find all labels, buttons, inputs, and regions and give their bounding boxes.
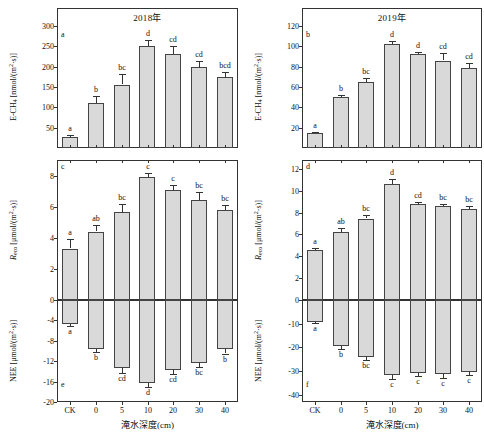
bar	[88, 300, 104, 349]
significance-letter: cd	[439, 42, 447, 51]
x-tick-mark	[122, 145, 123, 148]
y-tick-label: 12	[268, 165, 302, 174]
error-bar-cap	[119, 74, 126, 75]
y-tick-label: 200	[23, 63, 57, 72]
significance-letter: bc	[439, 193, 447, 202]
x-tick-mark	[96, 145, 97, 148]
x-tick-mark	[173, 145, 174, 148]
x-tick-mark	[315, 160, 316, 163]
significance-letter: cd	[169, 35, 177, 44]
x-tick-mark	[418, 145, 419, 148]
bar	[139, 46, 155, 148]
error-bar-cap	[440, 53, 447, 54]
y-tick-label: -20	[268, 343, 302, 352]
panel-d-y-axis-label: Reco [μmol/(m2·s)]	[253, 200, 263, 260]
x-tick-label: 10	[144, 406, 152, 415]
error-bar-cap	[67, 135, 74, 136]
x-tick-mark	[469, 402, 470, 405]
y-tick-label: 20	[268, 124, 302, 133]
error-bar-cap	[363, 215, 370, 216]
x-tick-mark	[122, 402, 123, 405]
y-tick-label: -40	[268, 391, 302, 400]
bar	[88, 232, 104, 300]
significance-letter: a	[68, 327, 72, 336]
y-tick-label: -10	[268, 320, 302, 329]
bar	[62, 300, 78, 324]
error-bar-cap	[196, 61, 203, 62]
significance-letter: a	[68, 124, 72, 133]
bar	[139, 300, 155, 383]
x-tick-mark	[225, 160, 226, 163]
error-bar-cap	[93, 96, 100, 97]
y-tick-label: 50	[23, 124, 57, 133]
x-tick-mark	[392, 402, 393, 405]
error-bar	[199, 61, 200, 68]
significance-letter: bcd	[219, 61, 231, 70]
x-tick-mark	[225, 402, 226, 405]
error-bar-cap	[170, 185, 177, 186]
panel-letter-f: f	[306, 380, 309, 389]
significance-letter: c	[171, 174, 175, 183]
x-tick-mark	[173, 402, 174, 405]
significance-letter: cd	[169, 375, 177, 384]
x-tick-mark	[418, 160, 419, 163]
y-tick-label: 0	[23, 296, 57, 305]
x-tick-mark	[315, 402, 316, 405]
significance-letter: b	[223, 355, 227, 364]
error-bar-cap	[389, 179, 396, 180]
bar	[217, 77, 233, 148]
panel-title-2019: 2019年	[302, 8, 482, 26]
error-bar	[122, 74, 123, 84]
error-bar-cap	[93, 225, 100, 226]
bar	[384, 184, 400, 300]
bar	[358, 300, 374, 357]
bar	[307, 250, 323, 300]
significance-letter: bc	[118, 193, 126, 202]
significance-letter: a	[68, 228, 72, 237]
y-tick-label: 8	[23, 172, 57, 181]
significance-letter: cd	[465, 52, 473, 61]
y-tick-label: 4	[23, 234, 57, 243]
x-tick-mark	[225, 145, 226, 148]
y-tick-label: 10	[268, 187, 302, 196]
bar	[333, 232, 349, 300]
error-bar-cap	[222, 205, 229, 206]
bar	[384, 44, 400, 148]
significance-letter: c	[416, 377, 420, 386]
error-bar-cap	[145, 40, 152, 41]
bar	[384, 300, 400, 375]
panel-letter-a: a	[61, 30, 65, 39]
x-tick-mark	[199, 160, 200, 163]
x-tick-mark	[392, 145, 393, 148]
x-tick-label: 0	[94, 406, 98, 415]
x-tick-mark	[148, 145, 149, 148]
x-tick-mark	[199, 402, 200, 405]
bar	[114, 212, 130, 300]
y-tick-label: 150	[23, 83, 57, 92]
bar	[435, 206, 451, 300]
x-tick-mark	[366, 402, 367, 405]
bar	[191, 300, 207, 363]
x-tick-label: 20	[414, 406, 422, 415]
y-tick-label: 6	[268, 230, 302, 239]
x-tick-mark	[341, 145, 342, 148]
significance-letter: bc	[465, 195, 473, 204]
y-tick-label: 40	[268, 103, 302, 112]
x-tick-label: 10	[388, 406, 396, 415]
panel-c-y-axis-label: Reco [μmol/(m2·s)]	[8, 200, 18, 260]
significance-letter: bc	[195, 181, 203, 190]
error-bar	[96, 96, 97, 103]
x-tick-mark	[148, 402, 149, 405]
y-tick-label: -30	[268, 367, 302, 376]
error-bar-cap	[145, 173, 152, 174]
bar	[165, 190, 181, 300]
error-bar-cap	[389, 41, 396, 42]
panel-letter-b: b	[306, 30, 310, 39]
panel-letter-c: c	[61, 162, 65, 171]
x-tick-mark	[70, 160, 71, 163]
error-bar-cap	[466, 63, 473, 64]
significance-letter: bc	[118, 63, 126, 72]
x-tick-mark	[469, 160, 470, 163]
error-bar	[225, 349, 226, 353]
bar	[435, 300, 451, 374]
